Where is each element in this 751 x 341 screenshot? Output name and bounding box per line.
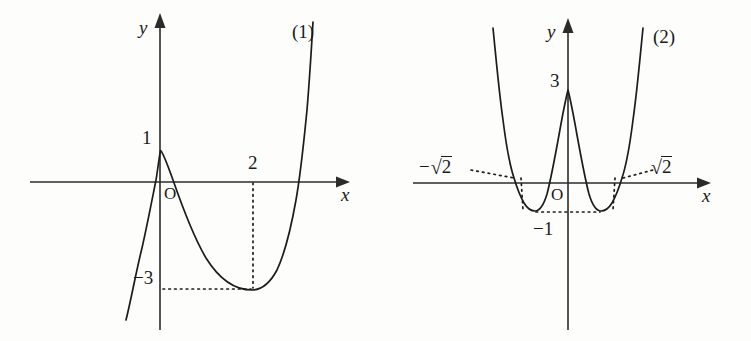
panel-2-x-axis-label: x (702, 186, 710, 205)
panel-2-y-axis-label: y (547, 22, 555, 41)
panel-1-x-axis-label: x (341, 185, 349, 204)
panel-2-left-root-label: −√2 (419, 155, 452, 177)
panel-1-y-axis-label: y (139, 18, 147, 37)
sqrt-bar-left: 2 (441, 156, 453, 176)
panel-1-origin-label: O (164, 185, 176, 202)
graph-panel-2: y x O 3 −√2 √2 −1 (2) (375, 0, 751, 341)
panel-1-plot (0, 0, 375, 341)
left-root-radical: √2 (431, 155, 452, 177)
y-axis-arrowhead (155, 13, 166, 28)
panel-2-left-root-radicand: 2 (442, 156, 452, 177)
panel-2-minima-label: −1 (533, 219, 553, 238)
graph-panel-1: y x O 1 2 −3 (1) (0, 0, 375, 341)
right-root-radical: √2 (651, 155, 672, 177)
sqrt-bar-right: 2 (661, 156, 673, 176)
panel-1-x-axis (30, 177, 350, 188)
panel-2-origin-label: O (551, 186, 563, 203)
left-root-minus: − (419, 157, 430, 176)
panel-2-left-root-leader (471, 170, 514, 178)
panel-1-y-minimum-label: −3 (133, 268, 153, 287)
panel-1-x-minimum-label: 2 (248, 153, 258, 172)
figure-root: y x O 1 2 −3 (1) (0, 0, 751, 341)
panel-2-right-root-label: √2 (651, 155, 672, 177)
panel-2-right-root-radicand: 2 (662, 156, 672, 177)
panel-1-y-axis (155, 13, 166, 330)
panel-1-tag: (1) (292, 22, 314, 41)
panel-2-right-root-leader (623, 170, 653, 178)
panel-1-curve (126, 22, 313, 320)
panel-1-y-intercept-label: 1 (142, 128, 152, 147)
y-axis-arrowhead (563, 18, 574, 33)
panel-2-tag: (2) (653, 27, 675, 46)
panel-2-y-intercept-label: 3 (550, 71, 560, 90)
panel-2-y-axis (563, 18, 574, 330)
